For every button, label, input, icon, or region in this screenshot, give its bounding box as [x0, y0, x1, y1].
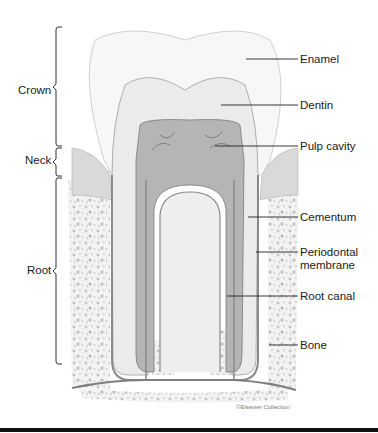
label-pulp-cavity: Pulp cavity — [300, 140, 356, 153]
label-periodontal-membrane: Periodontal membrane — [300, 246, 376, 272]
label-dentin: Dentin — [300, 99, 333, 112]
bottom-divider — [0, 428, 378, 432]
label-cementum: Cementum — [300, 211, 356, 224]
region-label-root: Root — [27, 264, 51, 277]
label-enamel: Enamel — [300, 53, 339, 66]
copyright-credit: ©Elsevier Collection — [236, 404, 290, 410]
label-bone: Bone — [300, 339, 327, 352]
label-root-canal: Root canal — [300, 290, 355, 303]
region-label-crown: Crown — [18, 84, 51, 97]
region-label-neck: Neck — [25, 154, 51, 167]
region-brackets — [53, 27, 62, 364]
